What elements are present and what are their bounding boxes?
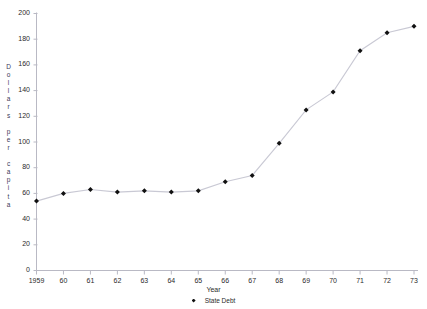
- legend: State Debt: [0, 297, 427, 304]
- plot-area: [0, 0, 427, 309]
- y-tick-label: 200: [4, 9, 30, 16]
- y-tick-label: 140: [4, 86, 30, 93]
- y-tick-label: 180: [4, 35, 30, 42]
- data-point: [196, 188, 201, 193]
- x-tick-label: 72: [372, 277, 402, 284]
- series-line-state-debt: [37, 26, 415, 201]
- y-tick-label: 80: [4, 163, 30, 170]
- tick-marks: [34, 14, 415, 275]
- x-tick-label: 67: [237, 277, 267, 284]
- y-tick-label: 120: [4, 112, 30, 119]
- chart-container: Dollars per capita 020406080100120140160…: [0, 0, 427, 309]
- x-tick-label: 69: [291, 277, 321, 284]
- data-point: [61, 191, 66, 196]
- x-tick-label: 70: [318, 277, 348, 284]
- series-points-state-debt: [34, 24, 417, 204]
- data-point: [88, 187, 93, 192]
- data-point: [223, 179, 228, 184]
- x-tick-label: 62: [102, 277, 132, 284]
- x-tick-label: 65: [183, 277, 213, 284]
- y-tick-label: 0: [4, 266, 30, 273]
- x-tick-label: 63: [129, 277, 159, 284]
- x-tick-label: 60: [48, 277, 78, 284]
- data-point: [412, 24, 417, 29]
- x-tick-label: 73: [399, 277, 427, 284]
- y-tick-label: 100: [4, 138, 30, 145]
- x-axis-title: Year: [0, 286, 427, 293]
- x-tick-label: 68: [264, 277, 294, 284]
- x-tick-label: 1959: [22, 277, 52, 284]
- legend-label-state-debt: State Debt: [205, 297, 236, 304]
- y-tick-label: 40: [4, 215, 30, 222]
- data-point: [34, 199, 39, 204]
- data-point: [142, 188, 147, 193]
- y-tick-label: 20: [4, 240, 30, 247]
- data-point: [169, 190, 174, 195]
- x-tick-label: 64: [156, 277, 186, 284]
- x-tick-label: 71: [345, 277, 375, 284]
- y-tick-label: 60: [4, 189, 30, 196]
- y-tick-label: 160: [4, 60, 30, 67]
- data-point: [115, 190, 120, 195]
- x-tick-label: 61: [75, 277, 105, 284]
- legend-marker-icon: [192, 299, 196, 303]
- x-tick-label: 66: [210, 277, 240, 284]
